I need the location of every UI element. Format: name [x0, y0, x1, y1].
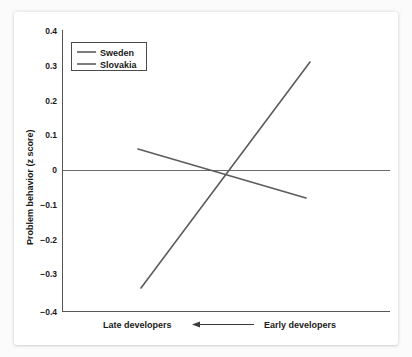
y-tick-label: 0 — [52, 165, 57, 175]
direction-arrow-icon — [192, 322, 254, 328]
x-axis-label-late-developers: Late developers — [103, 320, 172, 330]
y-tick-label: −0.1 — [40, 200, 57, 210]
legend: Sweden Slovakia — [72, 43, 147, 71]
y-tick-label: 0.4 — [45, 26, 57, 36]
y-tick-label: −0.4 — [40, 307, 57, 317]
series-line-sweden — [138, 149, 306, 198]
x-axis-label-early-developers: Early developers — [264, 320, 336, 330]
y-tick-label: 0.2 — [45, 96, 57, 106]
legend-label-sweden: Sweden — [100, 48, 134, 58]
chart-figure: Problem behavior (z score) 0.4 0.3 0.2 0… — [0, 0, 412, 357]
series-line-slovakia — [141, 62, 310, 288]
y-tick-label: 0.3 — [45, 61, 57, 71]
y-tick-label: −0.2 — [40, 235, 57, 245]
line-chart-canvas: Problem behavior (z score) 0.4 0.3 0.2 0… — [0, 0, 412, 357]
legend-label-slovakia: Slovakia — [100, 60, 138, 70]
y-tick-label: 0.1 — [45, 130, 57, 140]
y-tick-label: −0.3 — [40, 269, 57, 279]
y-axis-title: Problem behavior (z score) — [25, 129, 35, 245]
